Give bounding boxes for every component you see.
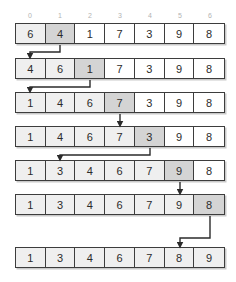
cell-0: 1 — [16, 161, 46, 180]
cell-5: 8 — [165, 248, 195, 267]
cell-6: 8 — [194, 127, 224, 146]
cell-4: 7 — [135, 161, 165, 180]
cell-4: 7 — [135, 195, 165, 214]
cell-2: 4 — [75, 161, 105, 180]
cell-1: 6 — [46, 59, 76, 78]
cell-3: 6 — [105, 195, 135, 214]
cell-4: 3 — [135, 59, 165, 78]
cell-3: 6 — [105, 161, 135, 180]
cell-0: 1 — [16, 127, 46, 146]
cell-5: 9 — [165, 127, 195, 146]
cell-1: 3 — [46, 195, 76, 214]
index-header: 0 1 2 3 4 5 6 — [15, 11, 225, 21]
cell-5: 9 — [165, 59, 195, 78]
cell-6: 8 — [194, 93, 224, 112]
cell-3: 7 — [105, 59, 135, 78]
cell-3: 7 — [105, 127, 135, 146]
cell-0: 4 — [16, 59, 46, 78]
cell-4: 3 — [135, 93, 165, 112]
insertion-sort-diagram: 0 1 2 3 4 5 6 6 4 1 7 3 9 8 4 6 1 7 3 9 … — [0, 0, 236, 282]
cell-4: 7 — [135, 248, 165, 267]
cell-3: 7 — [105, 93, 135, 112]
array-row-step-1: 6 4 1 7 3 9 8 — [15, 23, 225, 44]
array-row-step-4: 1 4 6 7 3 9 8 — [15, 126, 225, 147]
arrow-step2-to-step3 — [30, 80, 90, 90]
cell-1: 3 — [46, 248, 76, 267]
index-label-3: 3 — [105, 11, 135, 21]
array-row-step-6: 1 3 4 6 7 9 8 — [15, 194, 225, 215]
array-row-step-5: 1 3 4 6 7 9 8 — [15, 160, 225, 181]
index-label-4: 4 — [135, 11, 165, 21]
cell-6: 9 — [194, 248, 224, 267]
cell-2: 4 — [75, 195, 105, 214]
cell-5: 9 — [165, 195, 195, 214]
cell-0: 1 — [16, 93, 46, 112]
index-label-2: 2 — [75, 11, 105, 21]
cell-4: 3 — [135, 127, 165, 146]
cell-0: 1 — [16, 248, 46, 267]
array-row-step-2: 4 6 1 7 3 9 8 — [15, 58, 225, 79]
index-label-0: 0 — [15, 11, 45, 21]
arrow-step4-to-step5 — [60, 148, 150, 158]
cell-2: 1 — [75, 24, 105, 43]
arrow-step6-to-step7 — [180, 216, 210, 245]
index-label-1: 1 — [45, 11, 75, 21]
cell-6: 8 — [194, 195, 224, 214]
cell-1: 4 — [46, 127, 76, 146]
cell-5: 9 — [165, 93, 195, 112]
cell-3: 7 — [105, 24, 135, 43]
arrow-step1-to-step2 — [30, 45, 60, 56]
cell-2: 1 — [75, 59, 105, 78]
cell-3: 6 — [105, 248, 135, 267]
array-row-step-3: 1 4 6 7 3 9 8 — [15, 92, 225, 113]
cell-2: 6 — [75, 93, 105, 112]
cell-1: 3 — [46, 161, 76, 180]
cell-4: 3 — [135, 24, 165, 43]
cell-1: 4 — [46, 24, 76, 43]
cell-6: 8 — [194, 59, 224, 78]
cell-6: 8 — [194, 161, 224, 180]
cell-2: 4 — [75, 248, 105, 267]
cell-6: 8 — [194, 24, 224, 43]
cell-1: 4 — [46, 93, 76, 112]
index-label-5: 5 — [165, 11, 195, 21]
cell-5: 9 — [165, 24, 195, 43]
cell-5: 9 — [165, 161, 195, 180]
array-row-step-7: 1 3 4 6 7 8 9 — [15, 247, 225, 268]
cell-0: 1 — [16, 195, 46, 214]
cell-2: 6 — [75, 127, 105, 146]
cell-0: 6 — [16, 24, 46, 43]
index-label-6: 6 — [195, 11, 225, 21]
